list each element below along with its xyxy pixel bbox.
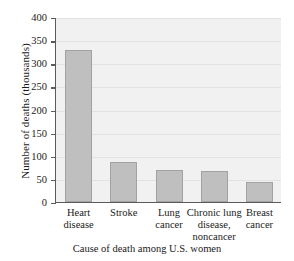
- y-axis-tick: [51, 180, 56, 181]
- y-axis-tick-label: 300: [31, 59, 47, 70]
- y-axis-tick-label: 0: [42, 198, 47, 209]
- bar: [65, 50, 92, 202]
- y-axis-tick-label: 50: [37, 175, 48, 186]
- x-axis-category-label: Lung cancer: [155, 207, 182, 231]
- y-axis-tick-label: 100: [31, 152, 47, 163]
- y-axis-title: Number of deaths (thousands): [19, 16, 31, 206]
- y-axis-tick: [51, 157, 56, 158]
- bar: [201, 171, 228, 202]
- y-axis-tick: [51, 64, 56, 65]
- plot-area: 050100150200250300350400Heart diseaseStr…: [55, 18, 281, 203]
- y-axis-tick-label: 200: [31, 105, 47, 116]
- x-axis-category-label: Stroke: [110, 207, 137, 219]
- bar: [246, 182, 273, 202]
- bar: [110, 162, 137, 202]
- y-axis-tick: [51, 111, 56, 112]
- y-axis-tick: [51, 203, 56, 204]
- y-gridline: [56, 18, 281, 19]
- bar-chart-figure: Number of deaths (thousands) 05010015020…: [0, 0, 294, 261]
- y-gridline: [56, 41, 281, 42]
- y-axis-tick: [51, 41, 56, 42]
- x-axis-category-label: Breast cancer: [246, 207, 273, 231]
- x-axis-category-label: Chronic lung disease, noncancer: [187, 207, 242, 242]
- y-axis-tick: [51, 134, 56, 135]
- x-axis-title: Cause of death among U.S. women: [0, 243, 294, 254]
- x-axis-category-label: Heart disease: [63, 207, 93, 231]
- y-axis-tick-label: 350: [31, 36, 47, 47]
- y-axis-tick-label: 250: [31, 82, 47, 93]
- y-axis-tick-label: 400: [31, 13, 47, 24]
- bar: [156, 170, 183, 202]
- y-axis-tick: [51, 87, 56, 88]
- y-axis-tick: [51, 18, 56, 19]
- y-axis-tick-label: 150: [31, 128, 47, 139]
